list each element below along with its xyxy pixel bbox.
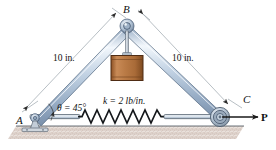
support-a-baseplate (22, 128, 48, 132)
figure-container: A B C 10 in. 10 in. θ = 45° k = 2 lb/in.… (0, 0, 276, 150)
label-length-left: 10 in. (53, 53, 75, 63)
label-point-a: A (15, 114, 23, 126)
spring (78, 110, 168, 123)
label-length-right: 10 in. (172, 53, 194, 63)
label-point-b: B (123, 3, 130, 15)
dim-tick-c (228, 99, 242, 108)
dim-tick-a (22, 101, 38, 112)
baseplate-bolt-left (26, 129, 28, 131)
hanger-rod (126, 31, 129, 55)
spring-coil (78, 110, 168, 123)
label-point-c: C (243, 93, 251, 105)
label-angle: θ = 45° (57, 103, 86, 113)
pin-a-inner (33, 116, 36, 119)
mechanics-diagram-svg: A B C 10 in. 10 in. θ = 45° k = 2 lb/in.… (0, 0, 276, 150)
label-spring-constant: k = 2 lb/in. (103, 96, 145, 106)
baseplate-bolt-right (42, 129, 44, 131)
pin-b-glint (124, 23, 127, 26)
roller-c-axle (219, 116, 222, 119)
label-force-p: P (261, 111, 268, 123)
